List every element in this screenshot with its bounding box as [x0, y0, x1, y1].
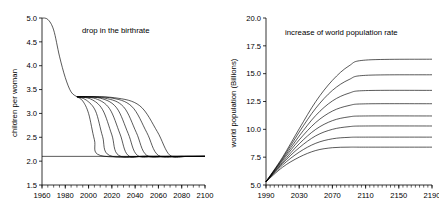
- x-tick-label: 2060: [150, 191, 167, 200]
- y-tick-label: 15.0: [246, 69, 261, 78]
- x-tick-label: 1990: [258, 191, 275, 200]
- projection-2: [266, 137, 432, 182]
- x-tick-label: 1980: [57, 191, 74, 200]
- x-tick-label: 2190: [424, 191, 439, 200]
- scenario-1-stabilize-2010: [77, 97, 205, 157]
- birthrate-chart-panel: children per woman drop in the birthrate…: [0, 0, 219, 222]
- y-tick-label: 4.5: [26, 38, 37, 47]
- projection-8: [266, 59, 432, 181]
- birthrate-y-axis-title: children per woman: [10, 69, 19, 137]
- scenario-3-stabilize-2026: [77, 97, 205, 158]
- y-tick-label: 5.0: [250, 181, 261, 190]
- x-tick-label: 2070: [324, 191, 341, 200]
- y-tick-label: 17.5: [246, 42, 261, 51]
- y-tick-label: 1.5: [26, 181, 37, 190]
- y-tick-label: 4.0: [26, 61, 37, 70]
- x-tick-label: 2030: [291, 191, 308, 200]
- projection-3: [266, 126, 432, 182]
- projection-6: [266, 90, 432, 181]
- y-tick-label: 2.5: [26, 133, 37, 142]
- scenario-4-stabilize-2034: [77, 97, 205, 158]
- x-tick-label: 2080: [173, 191, 190, 200]
- y-tick-label: 20.0: [246, 14, 261, 23]
- x-tick-label: 2000: [80, 191, 97, 200]
- y-tick-label: 10.0: [246, 125, 261, 134]
- y-tick-label: 7.5: [250, 153, 261, 162]
- x-tick-label: 1960: [34, 191, 51, 200]
- y-tick-label: 3.5: [26, 85, 37, 94]
- population-curves: [266, 59, 432, 181]
- scenario-2-stabilize-2018: [77, 97, 205, 157]
- population-projection-figure: children per woman drop in the birthrate…: [0, 0, 439, 222]
- population-chart-svg: world population (Billions) increase of …: [220, 0, 439, 222]
- birthrate-chart-title: drop in the birthrate: [82, 26, 150, 35]
- birthrate-axes: 1.52.02.53.03.54.04.55.01960198020002020…: [26, 14, 213, 200]
- birthrate-curves: [42, 18, 205, 157]
- scenario-5-stabilize-2042: [77, 97, 205, 158]
- observed-birthrate: [42, 18, 77, 97]
- x-tick-label: 2100: [197, 191, 214, 200]
- population-chart-panel: world population (Billions) increase of …: [220, 0, 439, 222]
- birthrate-chart-svg: children per woman drop in the birthrate…: [0, 0, 219, 222]
- x-tick-label: 2110: [357, 191, 373, 200]
- x-tick-label: 2020: [103, 191, 120, 200]
- scenario-7-stabilize-2060: [77, 97, 205, 158]
- scenario-8-stabilize-2070: [77, 97, 205, 158]
- y-tick-label: 5.0: [26, 14, 37, 23]
- projection-7: [266, 75, 432, 182]
- x-tick-label: 2040: [127, 191, 144, 200]
- y-tick-label: 2.0: [26, 157, 37, 166]
- y-tick-label: 12.5: [246, 97, 261, 106]
- population-y-axis-title: world population (Billions): [229, 58, 238, 148]
- scenario-6-stabilize-2050: [77, 97, 205, 158]
- population-chart-title: increase of world population rate: [285, 28, 398, 37]
- y-tick-label: 3.0: [26, 109, 37, 118]
- x-tick-label: 2150: [390, 191, 407, 200]
